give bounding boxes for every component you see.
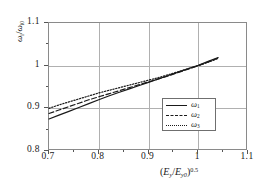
y-axis-omega0-symbol: ω: [14, 25, 24, 31]
legend-line-dotted-icon: [166, 122, 187, 130]
x-axis-title: (Ey/Ey0)0.5: [160, 166, 198, 178]
legend-line-dashed-icon: [166, 112, 187, 120]
data-curves: [49, 23, 248, 151]
y-tick-label: 1.1: [14, 16, 40, 26]
legend-box[interactable]: ω1 ω2 ω3: [162, 98, 216, 131]
x-title-exponent: 0.5: [190, 166, 198, 173]
legend-item-omega-2[interactable]: ω2: [166, 111, 212, 121]
y-tick-label: 0.8: [14, 144, 40, 154]
y-axis-omega-sub: i: [19, 34, 25, 36]
y-tick-mark: [44, 150, 48, 151]
legend-item-omega-1[interactable]: ω1: [166, 101, 212, 111]
legend-item-omega-3[interactable]: ω3: [166, 121, 212, 131]
y-axis-omega-symbol: ω: [14, 36, 24, 42]
legend-line-solid-icon: [166, 102, 187, 110]
plot-area: [48, 22, 247, 150]
chart-figure: ωi/ωi0 (Ey/Ey0)0.5 0.70.80.911.1 0.80.91…: [0, 0, 272, 192]
y-tick-label: 0.9: [14, 101, 40, 111]
legend-label-omega-3: ω3: [191, 120, 200, 131]
y-tick-label: 1: [14, 59, 40, 69]
